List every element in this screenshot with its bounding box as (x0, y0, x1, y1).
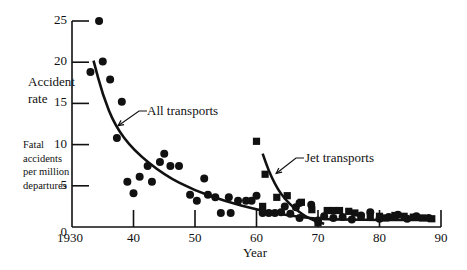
all-transports-data-point (217, 209, 225, 217)
y-axis-label-line2: rate (28, 90, 75, 107)
jet-data-point (284, 192, 291, 199)
jet-data-point (273, 194, 280, 201)
all-transports-data-point (186, 191, 194, 199)
all-transports-data-point (329, 214, 337, 222)
all-transports-data-point (144, 162, 152, 170)
all-transports-data-point (193, 197, 201, 205)
all-transports-data-point (234, 197, 242, 205)
all-transports-data-point (200, 174, 208, 182)
all-transports-data-point (86, 68, 94, 76)
all-transports-arrow (118, 111, 147, 126)
jet-data-point (314, 219, 321, 226)
jet-data-point (428, 215, 435, 222)
jet-data-point (308, 206, 315, 213)
jet-data-point (382, 214, 389, 221)
jet-data-point (391, 212, 398, 219)
jet-data-point (345, 208, 352, 215)
y-sublabel-line1: Fatal (23, 138, 69, 152)
all-transports-data-point (106, 76, 114, 84)
all-transports-data-point (95, 17, 103, 25)
all-transports-data-point (113, 134, 121, 142)
x-tick-label: 70 (298, 230, 338, 246)
trend-curves (94, 61, 435, 224)
all-transports-data-point (348, 216, 356, 224)
all-transports-data-point (281, 202, 289, 210)
jet-data-point (324, 207, 331, 214)
all-transports-label: All transports (147, 103, 218, 119)
x-tick-label: 80 (360, 230, 400, 246)
y-axis-sublabel: Fatal accidents per million departures (23, 138, 69, 192)
jet-data-point (330, 207, 337, 214)
jet-data-point (351, 209, 358, 216)
x-tick-label: 90 (421, 230, 461, 246)
all-transports-data-point (166, 162, 174, 170)
x-tick-label: 40 (114, 230, 154, 246)
all-transports-data-point (118, 98, 126, 106)
all-transports-data-point (130, 189, 138, 197)
jet-data-point (259, 203, 266, 210)
all-transports-data-point (156, 158, 164, 166)
x-tick-label: 50 (175, 230, 215, 246)
all-transports-curve (94, 61, 435, 220)
jet-data-point (336, 207, 343, 214)
jet-data-point (376, 213, 383, 220)
jet-data-point (419, 214, 426, 221)
jet-data-point (298, 199, 305, 206)
x-axis-label: Year (243, 245, 267, 261)
y-axis-label-line1: Accident (28, 73, 75, 90)
y-tick-label: 25 (43, 12, 67, 28)
jet-data-point (367, 214, 374, 221)
all-transports-data-point (286, 210, 294, 218)
y-sublabel-line4: departures (23, 179, 69, 193)
y-tick-label: 20 (43, 53, 67, 69)
jet-data-point (357, 214, 364, 221)
jet-data-point (262, 171, 269, 178)
all-transports-data-point (296, 214, 304, 222)
all-transports-data-point (175, 162, 183, 170)
all-transports-data-point (211, 193, 219, 201)
all-transports-data-point (225, 193, 233, 201)
all-transports-data-point (160, 150, 168, 158)
jet-transports-label: Jet transports (305, 150, 374, 166)
x-tick-label: 60 (237, 230, 277, 246)
all-transports-data-point (204, 191, 212, 199)
all-transports-data-point (227, 209, 235, 217)
data-points (86, 17, 435, 226)
jet-data-point (253, 138, 260, 145)
y-sublabel-line3: per million (23, 165, 69, 179)
y-axis-label: Accident rate (28, 73, 75, 107)
all-transports-data-point (136, 173, 144, 181)
jet-data-point (401, 213, 408, 220)
y-sublabel-line2: accidents (23, 152, 69, 166)
all-transports-data-point (99, 57, 107, 65)
jet-data-point (410, 214, 417, 221)
all-transports-data-point (253, 192, 261, 200)
all-transports-data-point (123, 178, 131, 186)
x-tick-label: 1930 (50, 230, 90, 246)
jet-transports-arrow (276, 158, 304, 173)
all-transports-data-point (148, 178, 156, 186)
